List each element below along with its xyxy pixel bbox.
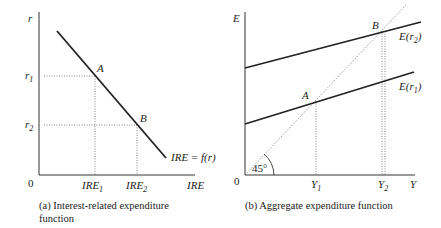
caption-line-2: function <box>39 212 169 225</box>
ire-curve <box>57 31 166 158</box>
panel-b: E 0 45° Y1 Y2 Y A B E(r2) E(r1) <box>232 5 422 193</box>
y-axis-label: r <box>28 12 33 24</box>
x-axis-label: IRE <box>186 179 204 191</box>
panel-b-caption: (b) Aggregate expenditure function <box>245 199 393 212</box>
curve-label: IRE = f(r) <box>170 151 216 164</box>
caption-line-1: (a) Interest-related expenditure <box>39 199 169 212</box>
x-tick-ire1: IRE1 <box>81 179 103 194</box>
x-axis-label: Y <box>410 178 418 190</box>
e-r1-line <box>245 72 414 124</box>
point-b-label: B <box>140 112 147 124</box>
x-tick-ire2: IRE2 <box>125 179 147 194</box>
panel-a: r r1 r2 0 IRE1 IRE2 IRE A B IRE = f(r) <box>25 12 216 194</box>
y-tick-r2: r2 <box>25 118 33 133</box>
e-r2-line <box>245 22 421 68</box>
point-b-label: B <box>372 19 379 31</box>
e-r2-label: E(r2) <box>398 30 422 45</box>
point-a-label: A <box>301 89 309 101</box>
y-axis-label: E <box>232 12 240 24</box>
panel-a-caption: (a) Interest-related expenditure functio… <box>39 199 169 225</box>
angle-label: 45° <box>252 162 267 174</box>
point-a-label: A <box>96 62 104 74</box>
diagram-canvas: r r1 r2 0 IRE1 IRE2 IRE A B IRE = f(r) E… <box>0 0 441 228</box>
y-tick-r1: r1 <box>25 69 33 84</box>
origin-label: 0 <box>28 177 34 189</box>
x-tick-y1: Y1 <box>311 178 321 193</box>
e-r1-label: E(r1) <box>398 80 422 95</box>
origin-label: 0 <box>234 175 240 187</box>
x-tick-y2: Y2 <box>378 178 388 193</box>
